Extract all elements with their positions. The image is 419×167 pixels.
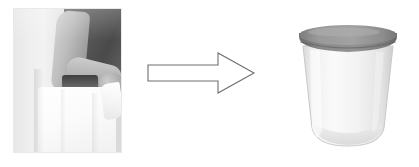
instruction-figure: Black and white photograph of a person's… <box>0 0 419 167</box>
photo-grain-overlay <box>14 9 121 152</box>
transition-arrow <box>146 50 256 96</box>
arrow-shape <box>148 53 254 93</box>
cup-lid-highlight <box>308 27 380 36</box>
person-holding-towel-photo: Black and white photograph of a person's… <box>13 8 122 153</box>
specimen-cup <box>296 24 400 152</box>
